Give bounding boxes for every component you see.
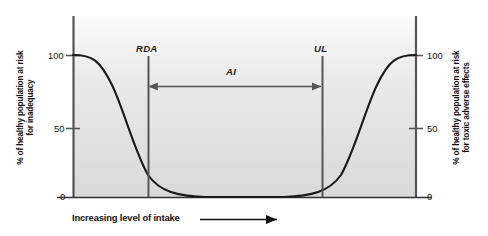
ai-annotation-label: AI — [226, 66, 236, 77]
chart-figure: % of healthy population at risk for inad… — [0, 0, 488, 236]
y-tick-label-right-50: 50 — [427, 123, 437, 134]
y-axis-left-title: % of healthy population at risk for inad… — [16, 46, 35, 170]
plot-background — [73, 16, 416, 197]
y-axis-right-title: % of healthy population at risk for toxi… — [452, 46, 471, 170]
y-tick-label-right-0: 0 — [427, 191, 432, 202]
y-tick-label-left-100: 100 — [48, 50, 64, 61]
risk-curves-plot — [0, 0, 488, 236]
x-axis-title: Increasing level of intake — [72, 213, 180, 223]
y-tick-label-right-100: 100 — [427, 50, 443, 61]
ul-annotation-label: UL — [314, 43, 327, 54]
y-tick-label-left-50: 50 — [54, 123, 64, 134]
rda-annotation-label: RDA — [136, 43, 157, 54]
y-tick-label-left-0: 0 — [60, 191, 65, 202]
